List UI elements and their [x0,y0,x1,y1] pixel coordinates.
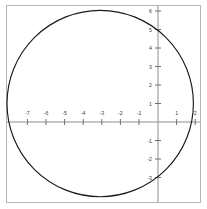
x-tick-label: -5 [62,110,67,116]
x-tick-label: 1 [175,110,178,116]
circle-curve [7,10,193,196]
y-tick-label: 6 [149,8,152,14]
plot-figure: -7 -6 -5 -4 -3 -2 -1 1 2 6 5 4 3 2 [0,0,207,209]
y-tick-label: -2 [147,156,152,162]
x-tick-label: -1 [137,110,142,116]
coordinate-plot: -7 -6 -5 -4 -3 -2 -1 1 2 6 5 4 3 2 [0,0,207,209]
y-tick-label: -3 [147,175,152,181]
y-tick-label: 4 [149,45,152,51]
x-tick-label: -4 [81,110,86,116]
x-tick-label: -6 [44,110,49,116]
y-tick-label: 1 [149,101,152,107]
y-tick-label: 3 [149,64,152,70]
y-axis-tick-labels: 6 5 4 3 2 1 -1 -2 -3 [147,8,152,181]
y-tick-label: 5 [149,27,152,33]
y-tick-label: -1 [147,138,152,144]
x-tick-label: 2 [194,110,197,116]
x-tick-label: -2 [118,110,123,116]
x-tick-label: -3 [99,110,104,116]
x-tick-label: -7 [25,110,30,116]
y-tick-label: 2 [149,82,152,88]
plot-frame [7,6,201,203]
x-axis-tick-labels: -7 -6 -5 -4 -3 -2 -1 1 2 [25,110,197,116]
